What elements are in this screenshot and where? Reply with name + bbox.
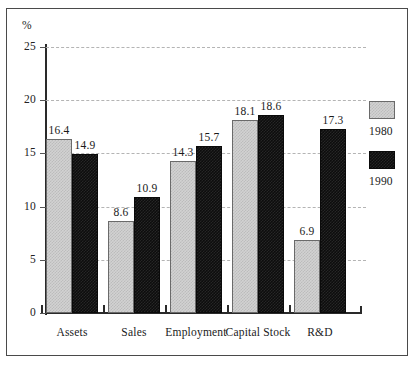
bar-assets-1980 [46,139,72,313]
bar-value-label-employment-1990: 15.7 [192,131,226,143]
bar-value-label-r-d-1980: 6.9 [290,225,324,237]
bar-value-label-assets-1980: 16.4 [42,124,76,136]
frame-rule-top [6,8,408,9]
bar-sales-1990 [134,197,160,313]
y-tick-25 [40,47,46,48]
y-tick-label-15: 15 [14,146,36,158]
bar-value-label-employment-1980: 14.3 [166,146,200,158]
bar-employment-1980 [170,161,196,313]
x-tick-assets [41,305,43,313]
bar-r-d-1990 [320,129,346,313]
legend-swatch-1980 [369,101,395,119]
y-axis-unit-label: % [22,19,32,31]
bar-r-d-1980 [294,240,320,313]
y-tick-label-5: 5 [14,253,36,265]
frame-rule-bottom [6,355,408,356]
bar-sales-1980 [108,221,134,313]
bar-value-label-r-d-1990: 17.3 [316,114,350,126]
bar-capital-stock-1990 [258,115,284,313]
chart-figure: % 0510152025 16.414.98.610.914.315.718.1… [0,0,414,367]
x-tick-capital-stock [227,305,229,313]
legend-label-1990: 1990 [369,175,409,187]
y-tick-0 [40,313,46,314]
x-tick-sales [103,305,105,313]
x-tick-employment [165,305,167,313]
bar-employment-1990 [196,146,222,313]
x-tick-r-d [289,305,291,313]
frame-rule-left [6,8,7,356]
y-tick-label-20: 20 [14,93,36,105]
legend-label-1980: 1980 [369,125,409,137]
y-tick-20 [40,100,46,101]
bar-capital-stock-1980 [232,120,258,313]
y-tick-label-25: 25 [14,40,36,52]
bar-assets-1990 [72,154,98,313]
gridline-20 [46,100,366,101]
x-axis-end-tick [360,306,362,313]
y-tick-label-10: 10 [14,200,36,212]
legend-swatch-1990 [369,151,395,169]
gridline-25 [46,47,366,48]
bar-value-label-sales-1990: 10.9 [130,182,164,194]
bar-value-label-sales-1980: 8.6 [104,206,138,218]
bar-value-label-assets-1990: 14.9 [68,139,102,151]
x-axis-label-r-d: R&D [275,326,365,338]
bar-value-label-capital-stock-1990: 18.6 [254,100,288,112]
y-tick-label-0: 0 [14,306,36,318]
